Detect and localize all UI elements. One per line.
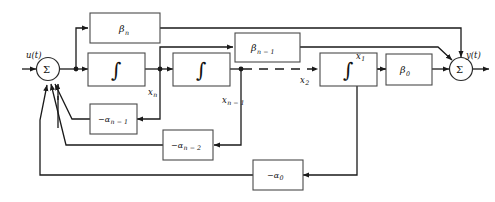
state-x2-label: x2	[300, 75, 309, 86]
wire-alpha-n-1-to-sum	[55, 84, 90, 119]
integrator-2-symbol: ∫	[196, 58, 206, 82]
state-xn-label: xn	[148, 87, 157, 98]
wire-to-beta-n	[76, 28, 88, 69]
integrator-3-symbol: ∫	[343, 58, 353, 82]
output-summer-symbol: Σ	[456, 64, 463, 75]
block-diagram-canvas: βn βn − 1 β0 ∫ ∫ ∫ −αn − 1 −αn − 2 −α0 Σ…	[0, 0, 495, 202]
input-signal-label: u(t)	[26, 50, 42, 60]
output-signal-label: y(t)	[465, 50, 481, 60]
input-summer-symbol: Σ	[43, 64, 50, 75]
integrator-1-symbol: ∫	[111, 58, 121, 82]
diagram-svg: βn βn − 1 β0 ∫ ∫ ∫ −αn − 1 −αn − 2 −α0 Σ…	[0, 0, 495, 202]
